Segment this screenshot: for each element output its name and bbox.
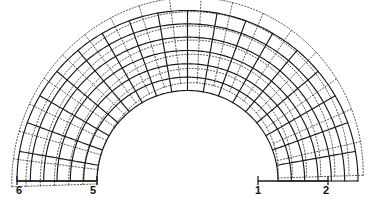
arch-mesh-canvas: 1256 [0,0,373,203]
node-label-1: 1 [255,184,261,196]
node-label-6: 6 [16,184,22,196]
node-label-2: 2 [323,184,329,196]
arch-mesh-figure: 1256 [0,0,373,203]
node-label-5: 5 [90,184,96,196]
